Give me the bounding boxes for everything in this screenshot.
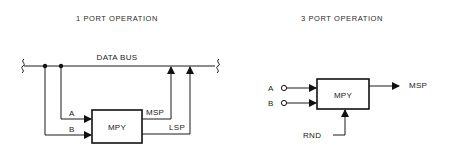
input-b-label: B [268,99,274,108]
rnd-control-label: RND [303,131,321,140]
input-b-wire [45,66,91,135]
bus-break-left-icon [22,59,25,73]
input-a-label: A [69,109,75,118]
one-port-title: 1 PORT OPERATION [76,14,158,23]
bus-break-right-icon [217,59,220,73]
msp-output-label: MSP [409,81,427,90]
input-a-port-icon [281,85,286,90]
lsp-output-label: LSP [169,123,185,132]
one-port-diagram: 1 PORT OPERATION DATA BUS A B MPY MSP LS… [22,14,220,143]
input-a-label: A [268,84,274,93]
diagram-canvas: 1 PORT OPERATION DATA BUS A B MPY MSP LS… [0,0,449,156]
data-bus-label: DATA BUS [97,53,138,62]
three-port-title: 3 PORT OPERATION [301,14,383,23]
input-b-port-icon [281,100,286,105]
rnd-control-wire [333,110,345,135]
three-port-diagram: 3 PORT OPERATION A B MPY MSP RND [268,14,427,140]
input-a-wire [61,66,91,119]
input-b-label: B [69,125,75,134]
mpy-block-label: MPY [334,91,353,100]
mpy-block-label: MPY [108,123,127,132]
msp-output-label: MSP [146,108,164,117]
